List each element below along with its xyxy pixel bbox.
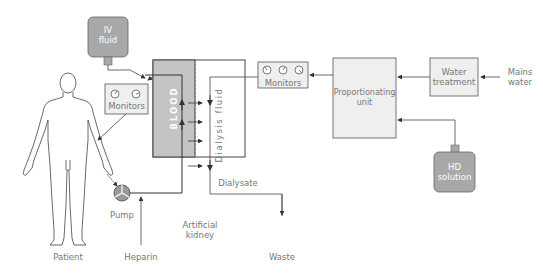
patient-label: Patient	[45, 252, 91, 262]
iv-label: IV	[94, 25, 122, 35]
artificial-kidney-label: Artificial kidney	[170, 220, 230, 240]
dialysis-fluid-label: Dialysis fluid	[214, 82, 224, 168]
waste-label: Waste	[257, 252, 307, 262]
mains-water-label: Mains water	[502, 67, 538, 87]
heparin-label: Heparin	[118, 252, 164, 262]
dialysate-label: Dialysate	[213, 178, 263, 188]
water-source-label: water	[502, 77, 538, 87]
water-treatment-label: Water treatment	[430, 67, 478, 87]
treatment-label: treatment	[430, 77, 478, 87]
proportionating-label: Proportionating	[333, 88, 396, 98]
blood-label: BLOOD	[169, 64, 179, 152]
water-label: Water	[430, 67, 478, 77]
kidney-label: kidney	[170, 230, 230, 240]
unit-label: unit	[333, 98, 396, 108]
pump-label: Pump	[102, 210, 142, 220]
monitors-left-label: Monitors	[105, 101, 148, 111]
solution-label: solution	[434, 172, 475, 182]
pump-icon	[114, 185, 130, 201]
patient-figure-icon	[23, 73, 112, 245]
mains-label: Mains	[502, 67, 538, 77]
hd-solution-label: HD solution	[434, 162, 475, 182]
fluid-label: fluid	[94, 35, 122, 45]
monitors-right-label: Monitors	[258, 78, 308, 88]
hd-label: HD	[434, 162, 475, 172]
iv-fluid-label: IV fluid	[94, 25, 122, 45]
diagram-canvas	[0, 0, 543, 276]
proportionating-unit-label: Proportionating unit	[333, 88, 396, 108]
artificial-label: Artificial	[170, 220, 230, 230]
gauge-icon	[263, 66, 303, 74]
